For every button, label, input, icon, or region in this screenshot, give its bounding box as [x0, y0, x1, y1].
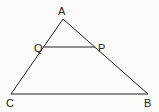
label-q: Q [34, 42, 43, 54]
label-c: C [6, 97, 14, 109]
segment-ac [11, 19, 63, 94]
segment-ab [63, 19, 148, 94]
label-a: A [58, 5, 66, 17]
diagram-canvas: A Q P C B [0, 0, 159, 112]
label-b: B [144, 97, 151, 109]
triangle-diagram: A Q P C B [0, 0, 159, 112]
label-p: P [98, 42, 105, 54]
